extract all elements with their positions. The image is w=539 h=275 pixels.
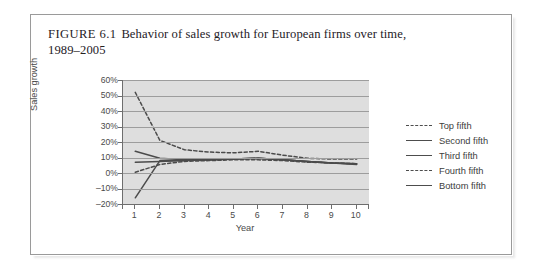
line-chart: 60%50%40%30%20%10%0%–10%–20% Sales growt… xyxy=(31,15,513,256)
plot-area xyxy=(122,80,369,205)
x-axis-tick xyxy=(307,205,308,209)
gridline xyxy=(123,80,369,81)
legend-line-solid-icon xyxy=(406,152,432,160)
gridline xyxy=(123,173,369,174)
legend-item[interactable]: Second fifth xyxy=(406,133,526,148)
figure-frame: FIGURE 6.1Behavior of sales growth for E… xyxy=(30,14,512,255)
y-axis-tick-label: 20% xyxy=(74,138,118,147)
y-axis-tick-label: 10% xyxy=(74,153,118,162)
x-axis-tick-label: 9 xyxy=(322,210,340,220)
x-axis-tick-label: 6 xyxy=(248,210,266,220)
y-axis-tick-label: 50% xyxy=(74,91,118,100)
x-axis-tick xyxy=(282,205,283,209)
x-axis-title: Year xyxy=(122,223,368,233)
legend-item[interactable]: Bottom fifth xyxy=(406,179,526,194)
x-axis-tick xyxy=(233,205,234,209)
x-axis-tick xyxy=(257,205,258,209)
x-axis-tick xyxy=(159,205,160,209)
y-axis-tick-label: –10% xyxy=(74,184,118,193)
legend-item[interactable]: Top fifth xyxy=(406,118,526,133)
x-axis-tick-label: 3 xyxy=(175,210,193,220)
x-axis-tick xyxy=(208,205,209,209)
gridline xyxy=(123,142,369,143)
x-axis-tick-label: 7 xyxy=(273,210,291,220)
y-axis-tick xyxy=(118,158,122,159)
y-axis-tick-label: 0% xyxy=(74,169,118,178)
x-axis-tick xyxy=(122,205,123,209)
y-axis-tick xyxy=(118,127,122,128)
y-axis-tick xyxy=(118,80,122,81)
legend-line-solid-icon xyxy=(406,182,432,190)
chart-legend: Top fifthSecond fifthThird fifthFourth f… xyxy=(406,118,526,194)
y-axis-tick xyxy=(118,189,122,190)
x-axis-tick-label: 5 xyxy=(224,210,242,220)
gridline xyxy=(123,158,369,159)
y-axis-tick xyxy=(118,111,122,112)
series-line-top-fifth xyxy=(135,92,356,159)
x-axis-tick-label: 2 xyxy=(150,210,168,220)
legend-item-label: Fourth fifth xyxy=(439,166,483,176)
legend-item-label: Top fifth xyxy=(439,121,472,131)
legend-line-dashed-icon xyxy=(406,167,432,175)
x-axis-tick-label: 4 xyxy=(199,210,217,220)
y-axis-tick-label: 30% xyxy=(74,122,118,131)
y-axis-tick-label: 40% xyxy=(74,107,118,116)
x-axis-tick-label: 10 xyxy=(347,210,365,220)
legend-item-label: Second fifth xyxy=(439,136,488,146)
y-axis-tick xyxy=(118,96,122,97)
gridline xyxy=(123,111,369,112)
x-axis-tick xyxy=(356,205,357,209)
legend-item-label: Third fifth xyxy=(439,151,478,161)
x-axis-tick xyxy=(368,205,369,209)
x-axis-tick xyxy=(134,205,135,209)
x-axis-tick-label: 1 xyxy=(125,210,143,220)
x-axis-tick xyxy=(184,205,185,209)
x-axis-tick-label: 8 xyxy=(298,210,316,220)
gridline xyxy=(123,127,369,128)
series-line-bottom-fifth xyxy=(135,158,356,198)
legend-line-solid-icon xyxy=(406,137,432,145)
y-axis-tick-label: –20% xyxy=(74,200,118,209)
y-axis-tick xyxy=(118,142,122,143)
legend-item[interactable]: Fourth fifth xyxy=(406,164,526,179)
gridline xyxy=(123,189,369,190)
legend-item-label: Bottom fifth xyxy=(439,181,486,191)
y-axis-title: Sales growth xyxy=(29,58,39,111)
legend-item[interactable]: Third fifth xyxy=(406,148,526,163)
x-axis-tick xyxy=(331,205,332,209)
y-axis-labels: 60%50%40%30%20%10%0%–10%–20% xyxy=(71,75,118,211)
y-axis-tick xyxy=(118,173,122,174)
gridline xyxy=(123,96,369,97)
legend-line-dashed-icon xyxy=(406,122,432,130)
y-axis-tick-label: 60% xyxy=(74,76,118,85)
